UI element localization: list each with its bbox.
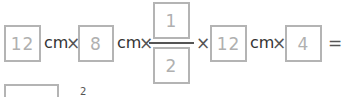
answer-box-4[interactable]: 4 <box>285 25 322 62</box>
fraction-bar <box>149 42 194 44</box>
unit-cm-2: cm <box>117 33 141 53</box>
fraction-numerator-box[interactable]: 1 <box>153 2 190 39</box>
fraction-denominator-box[interactable]: 2 <box>153 47 190 84</box>
times-operator-3: × <box>196 33 210 53</box>
answer-box-3[interactable]: 12 <box>210 25 247 62</box>
result-answer-box[interactable] <box>4 84 59 97</box>
unit-cm-1: cm <box>44 33 68 53</box>
equals-operator: = <box>328 33 342 53</box>
unit-cm-3: cm <box>250 33 274 53</box>
answer-box-1[interactable]: 12 <box>4 25 41 62</box>
unit-superscript: 2 <box>80 86 86 97</box>
answer-box-2[interactable]: 8 <box>78 25 114 62</box>
